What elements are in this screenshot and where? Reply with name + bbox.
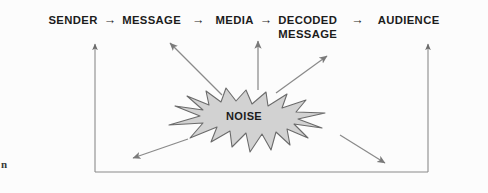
edge-text-fragment: n — [1, 158, 7, 170]
arrow-noise-down-right — [340, 135, 385, 163]
chain-node-sender: SENDER — [48, 14, 97, 28]
noise-starburst-shape — [169, 88, 325, 152]
arrow-noise-to-decoded-message — [276, 56, 327, 93]
arrow-noise-to-message — [170, 43, 222, 95]
chain-node-audience: AUDIENCE — [378, 14, 440, 28]
chain-arrow-decoded-message-to-audience: → — [337, 14, 378, 28]
decoded-message-line-2: MESSAGE — [278, 28, 337, 40]
communication-chain: SENDER → MESSAGE → MEDIA → DECODED MESSA… — [0, 14, 488, 41]
chain-arrow-message-to-media: → — [181, 14, 216, 28]
arrow-noise-down-left — [133, 139, 188, 158]
chain-arrow-media-to-decoded-message: → — [254, 14, 279, 28]
decoded-message-line-1: DECODED — [278, 14, 337, 26]
diagram-canvas: SENDER → MESSAGE → MEDIA → DECODED MESSA… — [0, 0, 488, 193]
chain-arrow-sender-to-message: → — [98, 14, 123, 28]
chain-node-media: MEDIA — [216, 14, 254, 28]
chain-node-decoded-message: DECODED MESSAGE — [278, 14, 337, 41]
chain-node-message: MESSAGE — [122, 14, 181, 28]
